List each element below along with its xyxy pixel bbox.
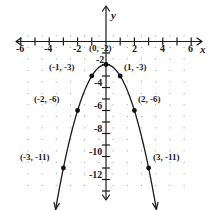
data-point <box>118 74 123 79</box>
point-label--1--3: (-1, -3) <box>49 63 75 72</box>
x-axis-label: x <box>200 44 206 55</box>
x-tick-label-6: 6 <box>188 44 193 54</box>
x-tick-label--2: -2 <box>73 44 81 54</box>
point-label-2--6: (2, -6) <box>138 95 161 104</box>
y-tick-label--10: -10 <box>89 147 102 157</box>
x-tick-label-2: 2 <box>132 44 137 54</box>
y-tick-label--4: -4 <box>94 78 102 88</box>
y-tick-label--2: -2 <box>96 55 104 65</box>
coordinate-plane-figure: -6 -4 -2 2 4 6 -2 -4 -6 -8 -10 -12 y x (… <box>0 0 209 210</box>
point-label--2--6: (-2, -6) <box>34 95 60 104</box>
data-point <box>132 108 137 113</box>
x-tick-label--4: -4 <box>44 44 52 54</box>
point-label--3--11: (-3, -11) <box>20 153 50 162</box>
point-label-3--11: (3, -11) <box>153 153 180 162</box>
x-tick-label-4: 4 <box>160 44 165 54</box>
point-label-0--2: (0, -2) <box>89 44 112 53</box>
data-point <box>146 166 151 171</box>
y-tick-label--12: -12 <box>89 170 102 180</box>
y-axis-label: y <box>111 10 116 21</box>
point-label-1--3: (1, -3) <box>124 63 147 72</box>
data-point <box>75 108 80 113</box>
x-tick-label--6: -6 <box>16 44 24 54</box>
y-axis <box>102 6 110 200</box>
y-tick-label--8: -8 <box>94 124 102 134</box>
y-tick-label--6: -6 <box>94 101 102 111</box>
graph-canvas <box>0 0 209 210</box>
data-point <box>61 166 66 171</box>
